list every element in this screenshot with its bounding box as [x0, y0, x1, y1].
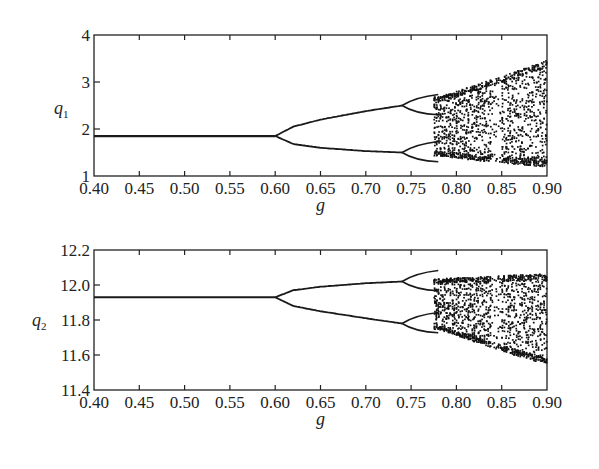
plot-frame: [94, 35, 547, 176]
y-tick-label: 12.0: [60, 276, 90, 295]
x-tick-label: 0.85: [487, 393, 517, 412]
lower-branch-line: [275, 136, 402, 153]
x-tick-label: 0.75: [396, 179, 426, 198]
x-tick-label: 0.60: [260, 393, 290, 412]
y-tick-label: 4: [82, 26, 91, 45]
y-axis-label: q1: [54, 98, 69, 120]
x-axis-label: g: [316, 195, 325, 215]
upper-branch-line: [275, 282, 402, 298]
x-tick-label: 0.45: [124, 393, 154, 412]
chaos-scatter: [433, 273, 547, 363]
chaos-scatter: [433, 60, 547, 167]
bifurcation-figure: 0.400.450.500.550.600.650.700.750.800.85…: [0, 0, 599, 469]
plot-frame: [94, 250, 547, 390]
x-tick-label: 0.80: [442, 179, 472, 198]
y-tick-label: 11.6: [61, 346, 90, 365]
y-tick-label: 11.4: [61, 381, 91, 400]
x-tick-label: 0.70: [351, 393, 381, 412]
y-axis-label: q2: [32, 310, 47, 332]
x-tick-label: 0.80: [442, 393, 472, 412]
x-tick-label: 0.55: [215, 393, 245, 412]
q1-plot: 0.400.450.500.550.600.650.700.750.800.85…: [54, 26, 562, 215]
x-tick-label: 0.85: [487, 179, 517, 198]
x-tick-label: 0.75: [396, 393, 426, 412]
x-tick-label: 0.45: [124, 179, 154, 198]
x-tick-label: 0.60: [260, 179, 290, 198]
y-tick-label: 1: [82, 167, 91, 186]
y-tick-label: 12.2: [60, 241, 90, 260]
x-axis-label: g: [316, 409, 325, 429]
x-tick-label: 0.90: [532, 179, 562, 198]
y-tick-label: 3: [82, 73, 91, 92]
x-tick-label: 0.50: [170, 179, 200, 198]
y-tick-label: 2: [82, 120, 91, 139]
lower-branch-line: [275, 297, 402, 323]
q2-plot: 0.400.450.500.550.600.650.700.750.800.85…: [32, 241, 562, 429]
x-tick-label: 0.70: [351, 179, 381, 198]
x-tick-label: 0.55: [215, 179, 245, 198]
x-tick-label: 0.90: [532, 393, 562, 412]
upper-branch-line: [275, 106, 402, 137]
y-tick-label: 11.8: [61, 311, 90, 330]
x-tick-label: 0.50: [170, 393, 200, 412]
